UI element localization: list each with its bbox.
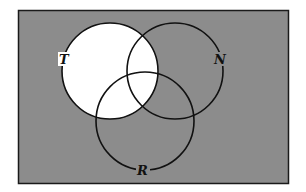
universe-rectangle — [19, 11, 289, 184]
label-r: R — [136, 163, 148, 178]
venn-diagram: T N R — [0, 0, 306, 192]
label-t: T — [59, 52, 70, 67]
label-n: N — [213, 52, 227, 67]
